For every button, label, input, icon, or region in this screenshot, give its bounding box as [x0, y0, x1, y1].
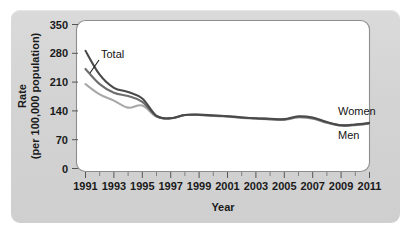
y-tick-label: 70: [56, 134, 68, 146]
y-axis-title: Rate (per 100,000 population): [16, 32, 41, 159]
series-label-total: Total: [101, 48, 124, 60]
y-tick-label: 0: [62, 163, 68, 175]
y-axis-title-line1: Rate: [16, 84, 28, 108]
x-axis-tick-labels: 1991 1993 1995 1997 1999 2001 2003 2005 …: [73, 180, 381, 192]
x-tick-label: 1995: [130, 180, 154, 192]
x-tick-label: 1997: [158, 180, 182, 192]
x-tick-label: 1991: [73, 180, 97, 192]
x-tick-label: 2007: [300, 180, 324, 192]
y-axis-title-line2: (per 100,000 population): [29, 32, 41, 159]
y-tick-label: 280: [50, 47, 68, 59]
x-tick-label: 2011: [358, 180, 382, 192]
y-tick-label: 350: [50, 19, 68, 31]
x-tick-label: 1993: [102, 180, 126, 192]
plot-area: [77, 21, 370, 172]
series-label-men: Men: [338, 129, 359, 141]
x-tick-label: 2003: [244, 180, 268, 192]
y-tick-label: 210: [50, 76, 68, 88]
line-chart: 350 280 210 140 70 0 Rate (per 100,000 p…: [0, 0, 411, 233]
y-tick-label: 140: [50, 105, 68, 117]
x-tick-label: 2009: [329, 180, 353, 192]
figure-container: 350 280 210 140 70 0 Rate (per 100,000 p…: [0, 0, 411, 233]
x-axis-title: Year: [211, 201, 235, 213]
y-axis-tick-labels: 350 280 210 140 70 0: [50, 19, 68, 175]
x-tick-label: 1999: [187, 180, 211, 192]
x-tick-label: 2005: [272, 180, 296, 192]
x-tick-label: 2001: [215, 180, 239, 192]
series-label-women: Women: [338, 105, 376, 117]
